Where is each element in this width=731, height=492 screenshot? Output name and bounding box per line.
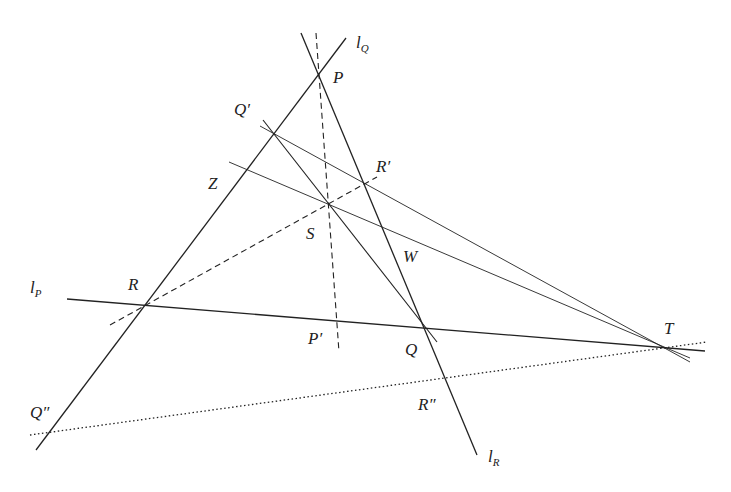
label-lQ: lQ [356,33,369,54]
label-Q: Q [405,340,417,359]
line-Qprime-Q [263,120,437,342]
label-Qprime: Q′ [234,100,250,119]
label-S: S [306,224,315,243]
label-W: W [403,247,419,266]
line-lQ [36,38,346,450]
label-lR: lR [488,447,500,468]
label-P: P [332,68,343,87]
line-Qprime-T [260,126,690,362]
line-Qdprime-T-dotted [30,342,707,435]
line-lP [67,299,705,351]
label-lP: lP [30,278,42,299]
label-Z: Z [208,174,218,193]
label-Qdprime: Q″ [30,403,50,422]
line-lR [301,33,477,455]
label-Rdprime: R″ [417,395,436,414]
label-R: R [127,275,139,294]
label-Pprime: P′ [307,329,322,348]
line-R-Rprime-dashed [110,177,377,325]
line-Z-T [229,162,690,358]
geometry-diagram: lQ P Q′ R′ Z S W lP R P′ Q T Q″ R″ lR [0,0,731,492]
label-Rprime: R′ [375,157,390,176]
label-T: T [664,319,675,338]
